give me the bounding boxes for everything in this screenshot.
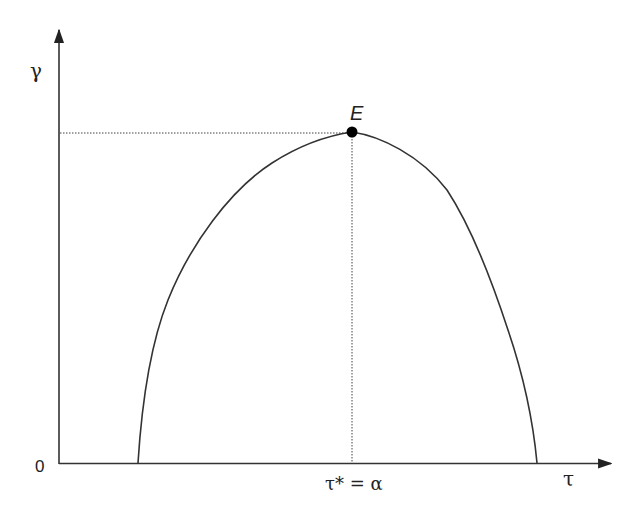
peak-point-label: E [350, 102, 364, 124]
curve-gamma-of-tau [138, 132, 537, 463]
origin-label: 0 [35, 457, 44, 476]
x-axis-label: τ [563, 467, 574, 491]
x-tick-label-tau-star: τ* = α [325, 473, 383, 494]
peak-point-e [347, 127, 358, 138]
y-axis-label: γ [30, 59, 42, 83]
chart-canvas: γ 0 τ E τ* = α [0, 0, 643, 517]
